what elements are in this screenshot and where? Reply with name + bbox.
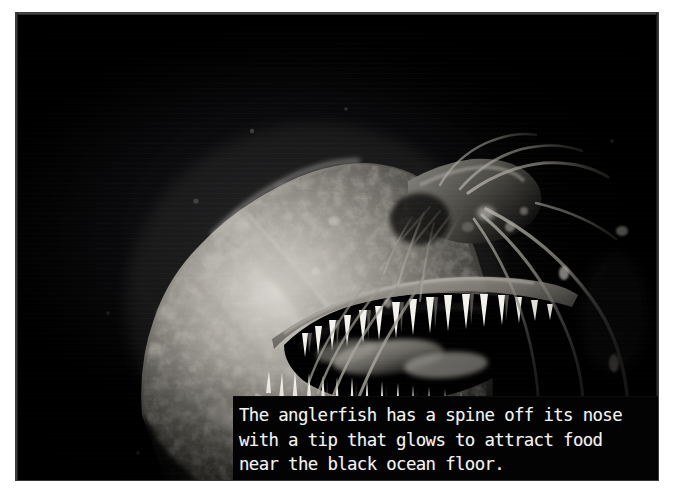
anglerfish-photograph: The anglerfish has a spine off its nose … xyxy=(16,13,658,480)
photo-caption-text: The anglerfish has a spine off its nose … xyxy=(233,396,658,477)
page-root: The anglerfish has a spine off its nose … xyxy=(0,0,685,503)
photo-caption-box: The anglerfish has a spine off its nose … xyxy=(233,396,658,480)
